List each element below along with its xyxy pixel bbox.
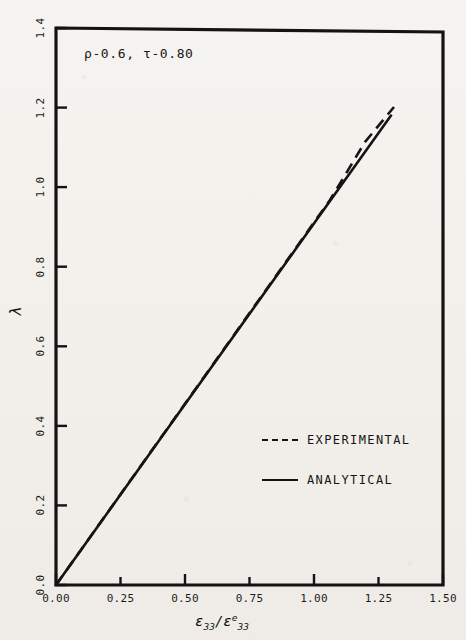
x-axis-sub2: 33 xyxy=(238,621,249,632)
x-tick-label: 0.75 xyxy=(236,592,264,605)
plot-annotation: ρ-0.6, τ-0.80 xyxy=(84,46,194,61)
legend-label-experimental: EXPERIMENTAL xyxy=(307,433,411,447)
x-tick-label: 0.25 xyxy=(107,592,135,605)
x-axis-title: ε33/εe33 xyxy=(195,612,249,632)
x-tick-label: 1.00 xyxy=(300,592,328,605)
y-tick-label: 0.6 xyxy=(34,336,47,357)
y-tick-label: 0.8 xyxy=(34,256,47,277)
x-tick-label: 1.25 xyxy=(365,592,393,605)
chart-canvas xyxy=(0,0,466,640)
x-tick-label: 0.50 xyxy=(171,592,199,605)
y-tick-label: 0.2 xyxy=(34,495,47,516)
x-tick-label: 1.50 xyxy=(429,592,457,605)
y-tick-label: 0.0 xyxy=(34,575,47,596)
legend-item-experimental: EXPERIMENTAL xyxy=(262,433,411,447)
y-tick-label: 1.0 xyxy=(34,177,47,198)
y-axis-title: λ xyxy=(7,307,25,316)
y-tick-label: 0.4 xyxy=(34,416,47,437)
legend-label-analytical: ANALYTICAL xyxy=(307,473,393,487)
y-axis-ticks xyxy=(56,28,67,585)
dashed-line-swatch-icon xyxy=(262,439,298,441)
x-axis-sub: 33 xyxy=(203,621,214,632)
x-axis-eps2: ε xyxy=(223,613,231,629)
y-tick-label: 1.2 xyxy=(34,97,47,118)
legend-item-analytical: ANALYTICAL xyxy=(262,473,393,487)
y-tick-label: 1.4 xyxy=(34,18,47,39)
solid-line-swatch-icon xyxy=(262,479,298,481)
x-axis-ticks xyxy=(56,574,443,585)
